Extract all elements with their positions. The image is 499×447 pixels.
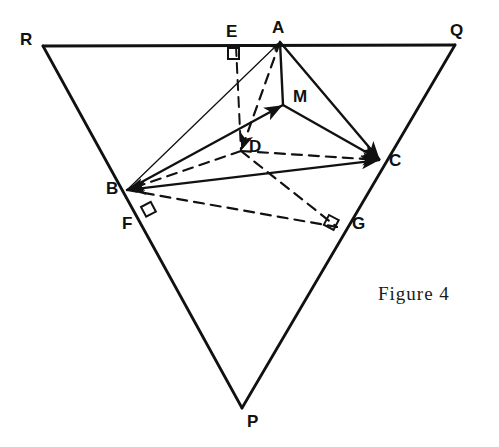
segment-MC (283, 105, 379, 160)
vertex-label-P: P (247, 413, 258, 430)
segment-BG (127, 190, 337, 227)
segment-ED (236, 46, 241, 151)
geometry-diagram (0, 0, 499, 447)
segment-layer (43, 42, 455, 408)
vertex-label-M: M (293, 88, 307, 105)
segment-QP (242, 45, 455, 408)
vertex-label-E: E (226, 23, 237, 40)
vertex-label-B: B (106, 180, 118, 197)
vertex-label-F: F (122, 215, 132, 232)
segment-DC (241, 151, 379, 160)
vertex-label-C: C (389, 152, 401, 169)
segment-DG (241, 151, 337, 227)
segment-AM (280, 42, 283, 105)
right-angle-F (141, 202, 156, 217)
vertex-label-R: R (20, 31, 32, 48)
vertex-label-D: D (249, 138, 261, 155)
segment-RQ (43, 45, 455, 46)
vertex-label-G: G (352, 215, 365, 232)
vertex-label-A: A (272, 19, 284, 36)
segment-AD (241, 42, 280, 150)
figure-4-container: REAQMDCBFGP Figure 4 (0, 0, 499, 447)
vertex-label-Q: Q (450, 22, 463, 39)
figure-caption: Figure 4 (378, 283, 450, 305)
segment-RP (43, 46, 242, 408)
segment-BC (128, 160, 379, 190)
segment-BA (127, 43, 279, 190)
